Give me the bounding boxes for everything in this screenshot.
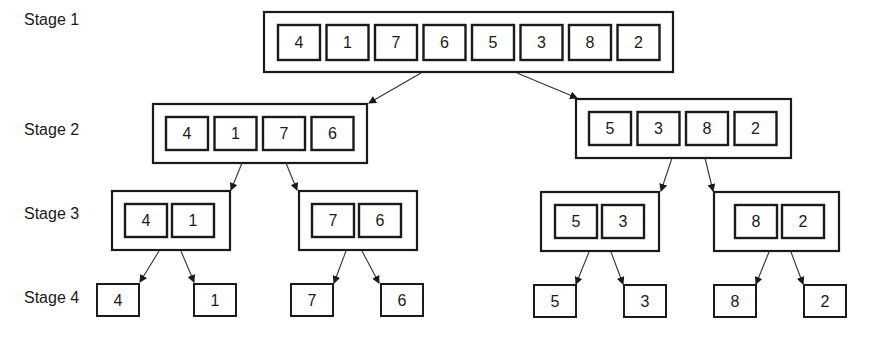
stage-2-left-value: 7 xyxy=(280,125,289,142)
stage-1-value: 1 xyxy=(343,34,352,51)
stage-1-value: 6 xyxy=(440,34,449,51)
stage-2-right-value: 5 xyxy=(606,120,615,137)
edge-s3-s4-5 xyxy=(576,252,589,284)
stage-1-value: 8 xyxy=(586,34,595,51)
edge-s2l-s3-1 xyxy=(231,163,242,190)
stage-4-7-value: 8 xyxy=(731,293,740,310)
stage-3-outer-box-3 xyxy=(541,192,659,251)
stage-4-2-value: 1 xyxy=(211,292,220,309)
edge-s3-s4-1 xyxy=(140,251,159,282)
stage-3-4-value: 2 xyxy=(799,213,808,230)
stage-3-3-value: 3 xyxy=(619,213,628,230)
stage-3-1-value: 1 xyxy=(189,212,198,229)
edge-s1-s2-left xyxy=(369,73,421,103)
stage-4-4-value: 6 xyxy=(398,292,407,309)
stage-1-value: 2 xyxy=(634,34,643,51)
stage-2-right-group: 5382 xyxy=(576,99,791,158)
edge-s2r-s3-4 xyxy=(705,158,713,191)
stage-4-8-value: 2 xyxy=(821,293,830,310)
stage-1-value: 5 xyxy=(489,34,498,51)
edge-s1-s2-right xyxy=(517,73,577,98)
stage-3-group-3: 53 xyxy=(541,192,659,251)
edge-s3-s4-3 xyxy=(334,251,346,283)
edge-s2l-s3-2 xyxy=(286,163,297,190)
edge-s3-s4-8 xyxy=(791,252,803,284)
merge-sort-diagram: 41765382 4176 5382 41 76 53 82 41765382 xyxy=(0,0,870,338)
stage-4-3-value: 7 xyxy=(308,292,317,309)
stage-2-left-value: 4 xyxy=(183,125,192,142)
stage-1-value: 7 xyxy=(392,34,401,51)
stage-4-6-value: 3 xyxy=(641,293,650,310)
stage-3-4-value: 8 xyxy=(752,213,761,230)
stage-2-left-value: 1 xyxy=(231,125,240,142)
stage-1-value: 3 xyxy=(537,34,546,51)
stage-3-group-4: 82 xyxy=(714,192,839,251)
edge-s3-s4-4 xyxy=(362,251,379,283)
stage-2-right-value: 8 xyxy=(703,120,712,137)
stage-3-group-1: 41 xyxy=(112,191,230,250)
stage-2-right-value: 2 xyxy=(751,120,760,137)
edge-s2r-s3-3 xyxy=(661,158,672,191)
stage-3-3-value: 5 xyxy=(572,213,581,230)
stage-2-left-value: 6 xyxy=(328,125,337,142)
stage-1-group: 41765382 xyxy=(264,12,673,72)
stage-1-value: 4 xyxy=(295,34,304,51)
stage-4-5-value: 5 xyxy=(551,293,560,310)
edge-s3-s4-6 xyxy=(611,252,623,284)
edge-s3-s4-7 xyxy=(756,252,769,284)
stage-3-1-value: 4 xyxy=(142,212,151,229)
stage-2-left-group: 4176 xyxy=(153,104,367,163)
stage-3-2-value: 7 xyxy=(329,212,338,229)
edge-s3-s4-2 xyxy=(181,251,194,282)
stage-4-1-value: 4 xyxy=(114,292,123,309)
stage-3-group-2: 76 xyxy=(299,191,417,250)
stage-3-2-value: 6 xyxy=(376,212,385,229)
stage-2-right-value: 3 xyxy=(654,120,663,137)
